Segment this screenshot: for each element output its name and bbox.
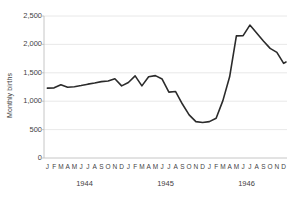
x-axis-month-label: A	[65, 164, 69, 171]
x-axis-month-label: M	[153, 164, 158, 171]
x-axis-month-label: M	[72, 164, 77, 171]
x-axis-month-label: F	[214, 164, 218, 171]
x-axis-month-label: J	[161, 164, 164, 171]
x-axis-month-label: J	[86, 164, 89, 171]
x-axis-month-label: M	[139, 164, 144, 171]
x-axis-month-label: J	[248, 164, 251, 171]
monthly-births-line-chart: Monthly births 05001,0001,5002,0002,500 …	[0, 0, 295, 200]
x-axis-month-label: D	[119, 164, 124, 171]
x-axis-month-label: O	[106, 164, 111, 171]
x-axis-month-label: J	[242, 164, 245, 171]
x-axis-month-label: A	[173, 164, 177, 171]
x-axis-month-label: A	[92, 164, 96, 171]
x-axis-month-label: N	[194, 164, 199, 171]
x-axis-month-label: J	[127, 164, 130, 171]
x-axis-month-label: S	[180, 164, 184, 171]
series-line-monthly-births	[47, 25, 286, 122]
x-axis-month-label: O	[268, 164, 273, 171]
x-axis-month-label: J	[208, 164, 211, 171]
x-axis-month-label: M	[58, 164, 63, 171]
x-axis-month-label: F	[133, 164, 137, 171]
x-axis-month-label: A	[254, 164, 258, 171]
x-axis-year-label: 1946	[238, 180, 255, 188]
x-axis-month-label: D	[200, 164, 205, 171]
x-axis-month-label: S	[99, 164, 103, 171]
x-axis-month-label: A	[146, 164, 150, 171]
x-axis-month-label: J	[167, 164, 170, 171]
x-axis-month-label: N	[275, 164, 280, 171]
axes	[41, 16, 44, 158]
x-axis-year-label: 1944	[76, 180, 93, 188]
x-axis-month-label: O	[187, 164, 192, 171]
data-series-line	[47, 25, 286, 122]
x-axis-month-label: J	[46, 164, 49, 171]
x-axis-month-label: M	[220, 164, 225, 171]
x-axis-month-label: F	[52, 164, 56, 171]
x-axis-month-label: S	[261, 164, 265, 171]
x-axis-month-label: A	[227, 164, 231, 171]
x-axis-month-label: M	[234, 164, 239, 171]
x-axis-year-label: 1945	[157, 180, 174, 188]
x-axis-month-label: J	[80, 164, 83, 171]
x-axis-month-label: N	[113, 164, 118, 171]
x-axis-month-label: D	[281, 164, 286, 171]
